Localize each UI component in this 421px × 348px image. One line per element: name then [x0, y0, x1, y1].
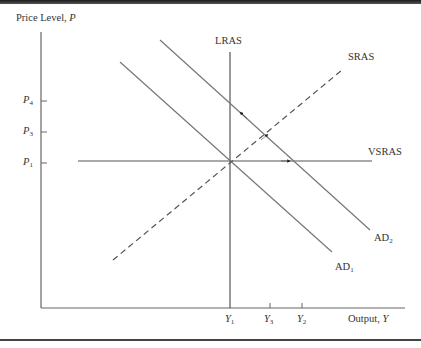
bottom-border	[0, 339, 421, 341]
vsras-label: VSRAS	[368, 147, 402, 158]
p4-label: P4	[23, 95, 33, 107]
sras-label: SRAS	[348, 52, 374, 63]
y2-label: Y2	[297, 314, 306, 326]
y-axis-var: P	[69, 12, 75, 23]
y1-label: Y1	[225, 314, 234, 326]
ad1-curve	[120, 62, 332, 252]
y-axis-label: Price Level, P	[16, 13, 76, 24]
ad2-curve	[160, 40, 370, 230]
ad2-label: AD2	[374, 233, 393, 245]
lras-label: LRAS	[215, 36, 242, 47]
sras-curve	[113, 70, 342, 260]
p3-label: P3	[23, 126, 33, 138]
x-axis-label: Output, Y	[348, 314, 388, 325]
y3-label: Y3	[264, 314, 273, 326]
y-axis-label-text: Price Level,	[16, 12, 67, 23]
ad1-label: AD1	[335, 262, 354, 274]
p1-label: P1	[23, 157, 33, 169]
x-axis-label-text: Output,	[348, 313, 380, 324]
ad2-arrow-icon	[241, 113, 247, 119]
x-axis-var: Y	[382, 313, 388, 324]
